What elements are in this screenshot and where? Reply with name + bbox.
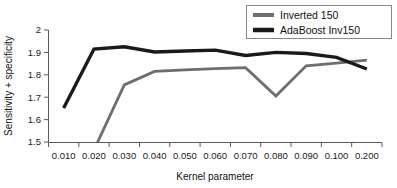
x-tick-label: 0.090 bbox=[294, 150, 318, 161]
x-tick-label: 0.060 bbox=[203, 150, 227, 161]
x-tick-label: 0.040 bbox=[143, 150, 167, 161]
x-tick-label: 0.200 bbox=[355, 150, 379, 161]
y-tick-label: 1.9 bbox=[28, 47, 41, 58]
y-tick-label: 2 bbox=[36, 24, 41, 35]
x-tick-label: 0.100 bbox=[325, 150, 349, 161]
x-axis-tick-labels: 0.0100.0200.0300.0400.0500.0600.0700.080… bbox=[52, 150, 379, 161]
x-tick-label: 0.010 bbox=[52, 150, 76, 161]
y-tick-label: 1.8 bbox=[28, 69, 41, 80]
legend-label-inverted-150: Inverted 150 bbox=[280, 9, 339, 21]
y-axis-title: Sensitivity + specificity bbox=[3, 36, 14, 136]
y-tick-label: 1.7 bbox=[28, 92, 41, 103]
x-tick-label: 0.050 bbox=[173, 150, 197, 161]
line-chart: 1.51.61.71.81.92 0.0100.0200.0300.0400.0… bbox=[0, 0, 397, 188]
y-tick-label: 1.5 bbox=[28, 136, 41, 147]
x-tick-label: 0.080 bbox=[264, 150, 288, 161]
x-tick-label: 0.070 bbox=[234, 150, 258, 161]
x-tick-label: 0.030 bbox=[112, 150, 136, 161]
chart-legend: Inverted 150 AdaBoost Inv150 bbox=[247, 6, 392, 39]
x-tick-label: 0.020 bbox=[82, 150, 106, 161]
chart-container: 1.51.61.71.81.92 0.0100.0200.0300.0400.0… bbox=[0, 0, 397, 188]
legend-label-adaboost-inv150: AdaBoost Inv150 bbox=[280, 24, 360, 36]
y-tick-label: 1.6 bbox=[28, 114, 41, 125]
x-axis-title: Kernel parameter bbox=[176, 171, 254, 182]
